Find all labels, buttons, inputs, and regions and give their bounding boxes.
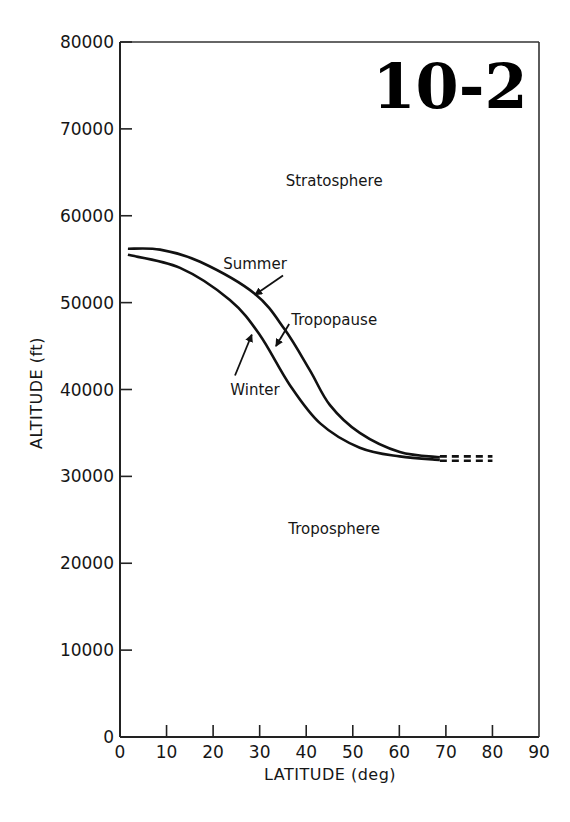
x-tick-label: 60: [389, 742, 411, 762]
plot-frame: [120, 42, 539, 737]
tropopause-altitude-chart: 0100002000030000400005000060000700008000…: [0, 0, 570, 822]
x-tick-label: 90: [528, 742, 550, 762]
y-tick-label: 80000: [60, 32, 114, 52]
y-tick-label: 0: [103, 727, 114, 747]
summer-curve: [128, 248, 440, 457]
x-tick-label: 50: [342, 742, 364, 762]
y-tick-label: 10000: [60, 640, 114, 660]
annotation-arrow-summer: [255, 276, 283, 295]
y-tick-label: 70000: [60, 119, 114, 139]
y-tick-label: 40000: [60, 380, 114, 400]
x-tick-label: 20: [202, 742, 224, 762]
annotation-summer: Summer: [223, 255, 287, 273]
figure-number-label: 10-2: [372, 50, 527, 123]
y-tick-label: 30000: [60, 466, 114, 486]
annotation-tropopause: Tropopause: [290, 311, 377, 329]
y-tick-label: 50000: [60, 293, 114, 313]
annotation-winter: Winter: [230, 381, 280, 399]
y-tick-label: 20000: [60, 553, 114, 573]
annotation-troposphere: Troposphere: [287, 520, 380, 538]
y-axis-title: ALTITUDE (ft): [27, 337, 46, 449]
annotation-arrow-winter: [235, 335, 252, 376]
x-tick-label: 70: [435, 742, 457, 762]
x-axis-ticks: 0102030405060708090: [115, 725, 550, 762]
y-axis-ticks: 0100002000030000400005000060000700008000…: [60, 32, 132, 747]
y-tick-label: 60000: [60, 206, 114, 226]
chart-annotations: StratosphereSummerTropopauseWinterTropos…: [223, 172, 382, 538]
annotation-stratosphere: Stratosphere: [286, 172, 383, 190]
tropopause-curves: [128, 248, 493, 460]
x-axis-title: LATITUDE (deg): [264, 765, 396, 784]
x-tick-label: 30: [249, 742, 271, 762]
winter-curve: [128, 255, 440, 460]
x-tick-label: 40: [295, 742, 317, 762]
x-tick-label: 80: [482, 742, 504, 762]
x-tick-label: 0: [115, 742, 126, 762]
x-tick-label: 10: [156, 742, 178, 762]
